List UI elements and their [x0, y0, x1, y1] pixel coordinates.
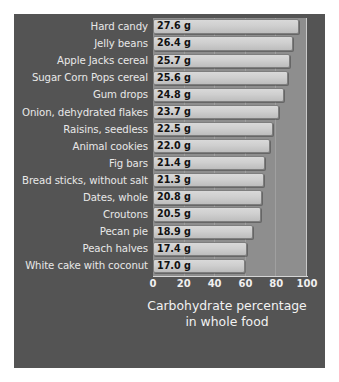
bar-category-label: Sugar Corn Pops cereal — [14, 72, 153, 83]
bar-track: 21.4 g — [153, 155, 320, 172]
bar-category-label: White cake with coconut — [14, 260, 153, 271]
bar-row: Hard candy27.6 g — [14, 18, 325, 35]
bar-value-label: 25.6 g — [157, 72, 191, 83]
bar-category-label: Apple Jacks cereal — [14, 55, 153, 66]
bar-row: Onion, dehydrated flakes23.7 g — [14, 103, 325, 120]
bar-track: 17.0 g — [153, 257, 320, 274]
bar-row: Gum drops24.8 g — [14, 86, 325, 103]
bar-category-label: Onion, dehydrated flakes — [14, 107, 153, 118]
bar-track: 26.4 g — [153, 35, 320, 52]
bar-value-label: 21.4 g — [157, 157, 191, 168]
bar-row: Bread sticks, without salt21.3 g — [14, 172, 325, 189]
x-axis-ticks: 020406080100 — [153, 278, 307, 292]
bar-track: 23.7 g — [153, 103, 320, 120]
bar-category-label: Raisins, seedless — [14, 124, 153, 135]
bar-track: 24.8 g — [153, 86, 320, 103]
bar-category-label: Fig bars — [14, 158, 153, 169]
bar-row: White cake with coconut17.0 g — [14, 257, 325, 274]
bar-row: Fig bars21.4 g — [14, 155, 325, 172]
bar-track: 17.4 g — [153, 240, 320, 257]
bar-category-label: Dates, whole — [14, 192, 153, 203]
bar-category-label: Animal cookies — [14, 141, 153, 152]
bar-track: 22.5 g — [153, 121, 320, 138]
x-tick-label: 80 — [269, 278, 283, 289]
bar-value-label: 18.9 g — [157, 226, 191, 237]
bar-value-label: 17.4 g — [157, 243, 191, 254]
bar-value-label: 22.0 g — [157, 140, 191, 151]
bar-track: 22.0 g — [153, 138, 320, 155]
bar-category-label: Peach halves — [14, 243, 153, 254]
bar-value-label: 23.7 g — [157, 106, 191, 117]
bar-category-label: Pecan pie — [14, 226, 153, 237]
x-axis-title: Carbohydrate percentage in whole food — [129, 298, 325, 330]
x-axis-title-line-1: Carbohydrate percentage — [129, 298, 325, 314]
bar-category-label: Gum drops — [14, 89, 153, 100]
bar-value-label: 20.5 g — [157, 208, 191, 219]
bar-value-label: 22.5 g — [157, 123, 191, 134]
bar-track: 20.8 g — [153, 189, 320, 206]
bar-value-label: 25.7 g — [157, 55, 191, 66]
bar-value-label: 17.0 g — [157, 260, 191, 271]
bar-row: Jelly beans26.4 g — [14, 35, 325, 52]
bar-row: Apple Jacks cereal25.7 g — [14, 52, 325, 69]
bar-row: Sugar Corn Pops cereal25.6 g — [14, 69, 325, 86]
bar-track: 20.5 g — [153, 206, 320, 223]
x-tick-label: 40 — [208, 278, 222, 289]
x-tick-label: 20 — [177, 278, 191, 289]
bar-value-label: 26.4 g — [157, 37, 191, 48]
bar-row: Animal cookies22.0 g — [14, 138, 325, 155]
x-tick-label: 0 — [150, 278, 157, 289]
bar-category-label: Hard candy — [14, 21, 153, 32]
bar-chart: Hard candy27.6 gJelly beans26.4 gApple J… — [14, 18, 325, 280]
x-axis-title-line-2: in whole food — [129, 314, 325, 330]
bar-value-label: 24.8 g — [157, 89, 191, 100]
x-tick-label: 60 — [238, 278, 252, 289]
bar-value-label: 21.3 g — [157, 174, 191, 185]
bar-category-label: Bread sticks, without salt — [14, 175, 153, 186]
bar-value-label: 20.8 g — [157, 191, 191, 202]
bar-row: Pecan pie18.9 g — [14, 223, 325, 240]
bar-row: Croutons20.5 g — [14, 206, 325, 223]
bar-category-label: Croutons — [14, 209, 153, 220]
bar-track: 21.3 g — [153, 172, 320, 189]
chart-figure: Hard candy27.6 gJelly beans26.4 gApple J… — [14, 14, 325, 368]
bar-track: 25.6 g — [153, 69, 320, 86]
bar-track: 27.6 g — [153, 18, 320, 35]
x-tick-label: 100 — [297, 278, 318, 289]
bar-track: 25.7 g — [153, 52, 320, 69]
bar-category-label: Jelly beans — [14, 38, 153, 49]
bar-row: Peach halves17.4 g — [14, 240, 325, 257]
bar-row: Raisins, seedless22.5 g — [14, 121, 325, 138]
bar-row: Dates, whole20.8 g — [14, 189, 325, 206]
x-axis-line — [153, 276, 308, 277]
bar-track: 18.9 g — [153, 223, 320, 240]
bar-value-label: 27.6 g — [157, 20, 191, 31]
